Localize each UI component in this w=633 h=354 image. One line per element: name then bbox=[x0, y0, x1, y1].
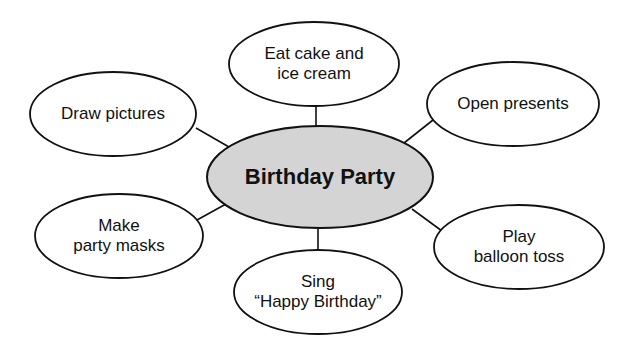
node-label-line: party masks bbox=[73, 236, 165, 256]
node-label-line: Play bbox=[474, 227, 565, 247]
node-make-party-masks-label: Make party masks bbox=[73, 216, 165, 257]
node-label-line: balloon toss bbox=[474, 247, 565, 267]
node-open-presents-label: Open presents bbox=[457, 94, 569, 114]
node-label-line: ice cream bbox=[264, 64, 363, 84]
center-node-label: Birthday Party bbox=[245, 164, 395, 190]
connector-line-make-party-masks bbox=[197, 204, 226, 220]
connector-line-play-balloon-toss bbox=[412, 209, 442, 231]
connector-line-draw-pictures bbox=[196, 128, 229, 147]
connector-line-open-presents bbox=[404, 120, 433, 143]
node-sing-happy-birthday-label: Sing “Happy Birthday” bbox=[254, 272, 382, 313]
node-label-line: Eat cake and bbox=[264, 44, 363, 64]
node-label-line: Sing bbox=[254, 272, 382, 292]
node-label-line: Draw pictures bbox=[61, 104, 165, 124]
node-eat-cake-label: Eat cake and ice cream bbox=[264, 44, 363, 85]
node-label-line: Make bbox=[73, 216, 165, 236]
node-draw-pictures-label: Draw pictures bbox=[61, 104, 165, 124]
node-label-line: “Happy Birthday” bbox=[254, 292, 382, 312]
birthday-party-web-diagram: Birthday Party Eat cake and ice cream Dr… bbox=[0, 0, 633, 354]
node-play-balloon-toss-label: Play balloon toss bbox=[474, 227, 565, 268]
node-label-line: Open presents bbox=[457, 94, 569, 114]
